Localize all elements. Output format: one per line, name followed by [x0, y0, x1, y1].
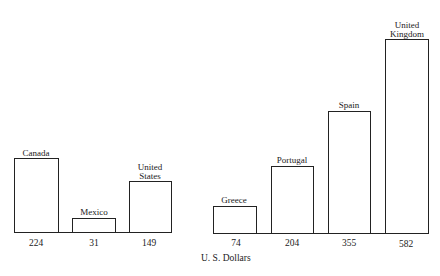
- bar-greece: [213, 206, 257, 234]
- bar-spain: [328, 111, 371, 234]
- value-canada: 224: [11, 238, 61, 248]
- bar-united-kingdom: [385, 39, 429, 234]
- value-united-kingdom: 582: [381, 239, 431, 249]
- x-axis-label: U. S. Dollars: [201, 253, 251, 263]
- bar-label-uk-line2: Kingdom: [372, 30, 440, 39]
- value-united-states: 149: [124, 238, 174, 248]
- bar-label-greece: Greece: [199, 196, 269, 205]
- value-greece: 74: [211, 238, 261, 248]
- bar-canada: [14, 158, 59, 233]
- bar-label-mexico: Mexico: [59, 208, 129, 217]
- value-portugal: 204: [267, 238, 317, 248]
- bar-label-us-line2: States: [115, 172, 185, 181]
- bar-mexico: [72, 218, 116, 233]
- bar-label-spain: Spain: [314, 101, 384, 110]
- value-spain: 355: [324, 238, 374, 248]
- value-mexico: 31: [69, 238, 119, 248]
- bar-united-states: [129, 181, 172, 233]
- bar-label-canada: Canada: [1, 149, 71, 158]
- bar-portugal: [271, 166, 314, 234]
- bar-label-portugal: Portugal: [257, 156, 327, 165]
